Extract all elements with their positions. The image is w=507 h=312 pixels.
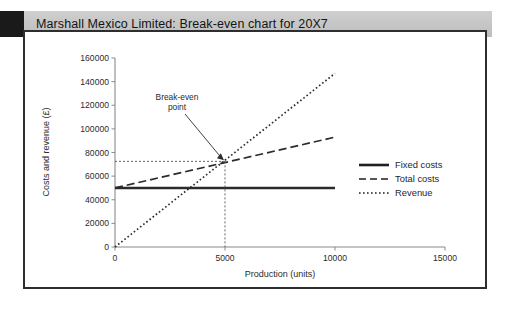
break-even-annotation: Break-evenpoint (115, 92, 225, 247)
x-tick-label: 5000 (215, 253, 234, 263)
y-tick-label: 80000 (85, 148, 109, 158)
break-even-label-line2: point (168, 102, 187, 112)
chart-container: 0200004000060000800001000001200001400001… (23, 30, 487, 289)
y-tick-label: 20000 (85, 218, 109, 228)
y-tick-label: 140000 (80, 77, 109, 87)
y-tick-label: 100000 (80, 124, 109, 134)
legend-label-fixed-costs: Fixed costs (395, 159, 443, 170)
y-tick-label: 120000 (80, 100, 109, 110)
series-line-revenue (115, 73, 335, 247)
y-tick-label: 160000 (80, 53, 109, 63)
y-tick-label: 0 (104, 242, 109, 252)
x-tick-label: 0 (113, 253, 118, 263)
chart-legend: Fixed costsTotal costsRevenue (355, 157, 495, 209)
x-axis-ticks: 050001000015000 (113, 247, 458, 263)
legend-label-total-costs: Total costs (395, 173, 440, 184)
data-series-group (115, 73, 335, 247)
y-tick-label: 40000 (85, 195, 109, 205)
break-even-label-line1: Break-even (156, 92, 199, 102)
legend-label-revenue: Revenue (395, 187, 433, 198)
y-axis-title: Costs and revenue (£) (41, 107, 51, 196)
header-black-marker (0, 11, 24, 37)
y-tick-label: 60000 (85, 171, 109, 181)
x-tick-label: 10000 (323, 253, 347, 263)
x-tick-label: 15000 (433, 253, 457, 263)
y-axis-ticks: 0200004000060000800001000001200001400001… (80, 53, 115, 252)
x-axis-title: Production (units) (245, 269, 316, 279)
break-even-arrow-shaft (185, 114, 221, 157)
